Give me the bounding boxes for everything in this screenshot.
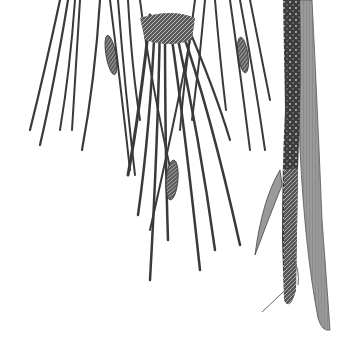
pine-needle	[230, 0, 250, 150]
needle-cluster	[30, 0, 270, 280]
botanical-illustration	[0, 0, 354, 349]
root-tendril	[262, 290, 285, 312]
curled-leaf	[255, 170, 282, 255]
stem-lower-sheath	[284, 168, 298, 304]
pine-needle	[165, 20, 168, 240]
pine-needle	[215, 0, 226, 110]
pine-needle	[250, 0, 270, 100]
needle-sheath	[140, 13, 195, 44]
pine-needle	[30, 0, 60, 130]
pine-needle	[150, 20, 160, 280]
pine-needle	[240, 0, 265, 150]
pine-needle	[82, 0, 100, 150]
grass-blade	[296, 0, 330, 330]
